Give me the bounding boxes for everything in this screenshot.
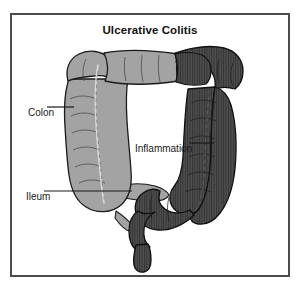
rectum-shape bbox=[134, 244, 151, 272]
label-ileum: Ileum bbox=[26, 191, 50, 203]
label-inflammation: Inflammation bbox=[135, 143, 192, 155]
transition-zone-shape bbox=[175, 53, 211, 85]
label-colon: Colon bbox=[28, 107, 54, 119]
figure-root: Ulcerative Colitis bbox=[0, 0, 300, 291]
figure-panel: Ulcerative Colitis bbox=[10, 13, 290, 277]
